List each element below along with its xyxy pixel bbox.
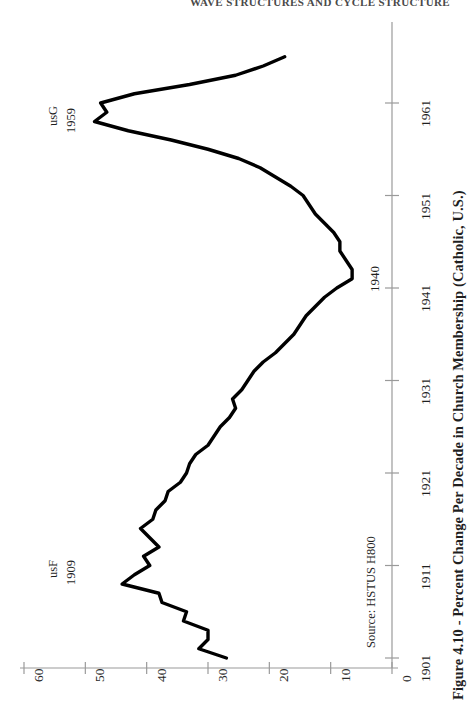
annotation-1940: 1940	[367, 266, 383, 292]
value-axis-tick-label: 0	[399, 675, 415, 682]
value-axis-tick-label: 30	[215, 669, 231, 683]
time-axis-tick-label: 1961	[418, 100, 434, 127]
figure-caption: Figure 4.10 - Percent Change Per Decade …	[450, 190, 467, 700]
value-axis-tick-label: 10	[338, 669, 354, 683]
time-axis-tick-label: 1931	[418, 378, 434, 405]
time-axis-tick-label: 1911	[418, 563, 434, 590]
value-axis-tick-label: 50	[92, 669, 108, 683]
series-tag-usf-year: 1909	[64, 560, 79, 585]
time-axis-tick-label: 1921	[418, 470, 434, 497]
source-note: Source: HSTUS H800	[364, 536, 379, 648]
time-axis-tick-label: 1951	[418, 193, 434, 220]
value-axis-tick-label: 40	[154, 669, 170, 683]
series-tag-usg-code: usG	[46, 106, 61, 126]
series-tag-usf-code: usF	[46, 560, 61, 578]
value-axis-tick-label: 20	[276, 669, 292, 683]
time-axis-tick-label: 1941	[418, 285, 434, 312]
figure-page: WAVE STRUCTURES AND CYCLE STRUCTURE 6050…	[0, 0, 470, 718]
time-axis-tick-label: 1901	[418, 655, 434, 682]
value-axis-tick-label: 60	[31, 669, 47, 683]
series-tag-usg-year: 1959	[64, 108, 79, 133]
series-line-catholic-membership	[95, 57, 353, 658]
